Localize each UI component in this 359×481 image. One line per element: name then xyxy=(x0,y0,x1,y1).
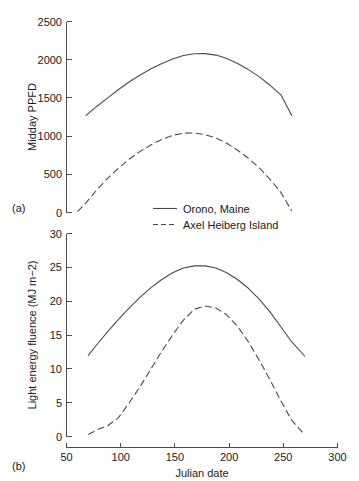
panel-a-label: (a) xyxy=(12,202,25,214)
panel-b-yticklabel-10: 10 xyxy=(50,363,62,375)
panel-b-y-ticks xyxy=(67,234,72,437)
legend-label-axelheiberg: Axel Heiberg Island xyxy=(183,219,278,231)
panel-a: 2500 2000 1500 1000 500 0 Midday PPFD (a… xyxy=(12,16,292,219)
panel-a-yticklabel-1000: 1000 xyxy=(38,130,62,142)
panel-b-xticklabel-150: 150 xyxy=(166,451,184,463)
panel-b-yticklabel-15: 15 xyxy=(50,329,62,341)
chart-svg: 2500 2000 1500 1000 500 0 Midday PPFD (a… xyxy=(0,0,359,481)
panel-b-yticklabel-5: 5 xyxy=(56,397,62,409)
figure-container: 2500 2000 1500 1000 500 0 Midday PPFD (a… xyxy=(0,0,359,481)
panel-a-yticklabel-2500: 2500 xyxy=(38,16,62,28)
panel-a-series-orono-curve xyxy=(86,54,292,116)
panel-b-xticklabel-100: 100 xyxy=(112,451,130,463)
panel-a-y-ticks xyxy=(67,22,72,213)
panel-b-y-axis-title: Light energy fluence (MJ m−2) xyxy=(26,261,38,410)
panel-b-series-orono-curve xyxy=(88,266,304,356)
panel-b-series-axelheiberg-curve xyxy=(88,306,304,435)
panel-b-xticklabel-250: 250 xyxy=(274,451,292,463)
panel-b-yticklabel-30: 30 xyxy=(50,228,62,240)
panel-b-x-ticks xyxy=(67,443,338,448)
panel-b-x-axis-title: Julian date xyxy=(175,467,228,479)
panel-b-xticklabel-300: 300 xyxy=(328,451,346,463)
legend-label-orono: Orono, Maine xyxy=(183,203,250,215)
panel-b-yticklabel-25: 25 xyxy=(50,261,62,273)
panel-b-xticklabel-200: 200 xyxy=(220,451,238,463)
panel-a-yticklabel-0: 0 xyxy=(56,207,62,219)
panel-a-series-axelheiberg-curve xyxy=(78,133,292,212)
panel-a-yticklabel-500: 500 xyxy=(44,168,62,180)
panel-a-yticklabel-1500: 1500 xyxy=(38,92,62,104)
panel-b-yticklabel-0: 0 xyxy=(56,431,62,443)
panel-a-y-axis-title: Midday PPFD xyxy=(26,83,38,151)
panel-b-label: (b) xyxy=(12,460,25,472)
panel-b-yticklabel-20: 20 xyxy=(50,295,62,307)
legend: Orono, Maine Axel Heiberg Island xyxy=(153,203,278,231)
panel-a-yticklabel-2000: 2000 xyxy=(38,54,62,66)
panel-b: 30 25 20 15 10 5 0 Light energy fluence … xyxy=(12,228,347,480)
panel-b-xticklabel-50: 50 xyxy=(60,451,72,463)
